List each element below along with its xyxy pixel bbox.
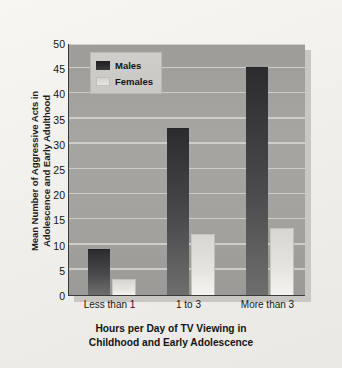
x-axis-title: Hours per Day of TV Viewing in Childhood… [0, 322, 342, 349]
legend-label-females: Females [115, 76, 153, 87]
y-tick-label-25: 25 [40, 164, 65, 176]
y-tick-label-35: 35 [40, 114, 65, 126]
bar-females-1-to-3 [191, 234, 215, 295]
legend-label-males: Males [115, 60, 141, 71]
x-axis-title-line-1: Hours per Day of TV Viewing in [0, 322, 342, 336]
bar-females-more-than-3 [270, 228, 294, 295]
y-tick-label-0: 0 [40, 290, 65, 302]
y-tick-label-5: 5 [40, 265, 65, 277]
y-tick-label-20: 20 [40, 189, 65, 201]
bar-males-more-than-3 [246, 67, 268, 295]
x-axis-title-line-2: Childhood and Early Adolescence [0, 336, 342, 350]
legend-item-males: Males [96, 57, 161, 73]
bar-females-less-than-1 [112, 279, 136, 295]
y-tick-label-40: 40 [40, 88, 65, 100]
y-tick-label-50: 50 [40, 38, 65, 50]
x-tick-label-1-to-3: 1 to 3 [176, 299, 201, 310]
legend-item-females: Females [96, 73, 161, 89]
gridline-50 [69, 44, 305, 45]
chart-legend: Males Females [90, 52, 162, 94]
bar-males-less-than-1 [88, 249, 110, 295]
x-tick-label-more-than-3: More than 3 [241, 299, 294, 310]
y-tick-label-10: 10 [40, 240, 65, 252]
bar-males-1-to-3 [167, 128, 189, 295]
y-tick-label-45: 45 [40, 63, 65, 75]
plot-area: Males Females [68, 44, 305, 296]
y-axis-tick-labels: 05101520253035404550 [40, 38, 65, 302]
legend-swatch-females-icon [96, 77, 110, 86]
x-axis-tick-labels: Less than 11 to 3More than 3 [68, 299, 305, 315]
y-tick-label-15: 15 [40, 214, 65, 226]
gridline-35 [69, 117, 305, 118]
y-tick-label-30: 30 [40, 139, 65, 151]
legend-swatch-males-icon [96, 61, 110, 70]
chart-figure: Mean Number of Aggressive Acts in Adoles… [0, 0, 342, 368]
x-tick-label-less-than-1: Less than 1 [84, 299, 136, 310]
